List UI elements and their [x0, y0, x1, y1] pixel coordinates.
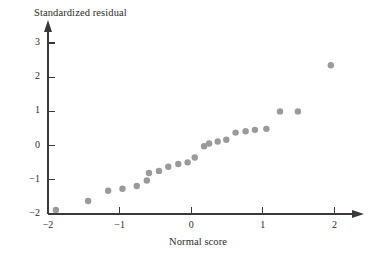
data-point	[134, 183, 140, 189]
data-point	[242, 128, 248, 134]
axis-ticks	[48, 43, 334, 214]
data-points	[53, 62, 334, 213]
x-tick-label: 1	[254, 219, 272, 230]
data-point	[53, 207, 59, 213]
data-point	[277, 108, 283, 114]
y-tick-label: 1	[24, 104, 40, 115]
data-point	[119, 185, 125, 191]
data-point	[85, 198, 91, 204]
normal-probability-plot: Standardized residual Normal score −2−10…	[0, 0, 373, 260]
y-tick-label: 3	[24, 36, 40, 47]
x-tick-label: −1	[111, 219, 129, 230]
data-point	[156, 168, 162, 174]
x-tick-label: 2	[325, 219, 343, 230]
data-point	[146, 170, 152, 176]
data-point	[206, 140, 212, 146]
data-point	[252, 127, 258, 133]
x-tick-label: 0	[182, 219, 200, 230]
data-point	[105, 188, 111, 194]
data-point	[214, 138, 220, 144]
x-axis-arrow	[352, 210, 364, 218]
data-point	[263, 126, 269, 132]
data-point	[223, 137, 229, 143]
data-point	[328, 62, 334, 68]
data-point	[165, 164, 171, 170]
data-point	[295, 108, 301, 114]
data-point	[232, 129, 238, 135]
data-point	[175, 161, 181, 167]
x-tick-label: −2	[39, 219, 57, 230]
y-tick-label: −1	[24, 173, 40, 184]
data-point	[144, 177, 150, 183]
data-point	[184, 159, 190, 165]
y-tick-label: −2	[24, 207, 40, 218]
y-tick-label: 0	[24, 139, 40, 150]
y-axis-arrow	[44, 20, 52, 32]
y-tick-label: 2	[24, 70, 40, 81]
axes	[44, 20, 364, 218]
data-point	[192, 154, 198, 160]
